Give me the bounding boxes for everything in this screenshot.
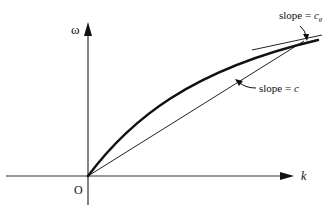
phase-velocity-leader [235,79,256,88]
k-axis-arrowhead-icon [280,172,294,180]
omega-axis [84,22,92,205]
omega-axis-label: ω [71,22,80,37]
k-axis [6,172,294,180]
dispersion-curve [88,40,318,176]
group-velocity-label: slope = cg [279,9,323,23]
phase-velocity-label: slope = c [259,82,299,94]
k-axis-label: k [301,169,307,183]
dispersion-diagram: ω k O slope = cg slope = c [0,0,331,205]
origin-label: O [74,183,83,197]
chord-line-phase-velocity [88,41,304,176]
omega-axis-arrowhead-icon [84,22,92,36]
